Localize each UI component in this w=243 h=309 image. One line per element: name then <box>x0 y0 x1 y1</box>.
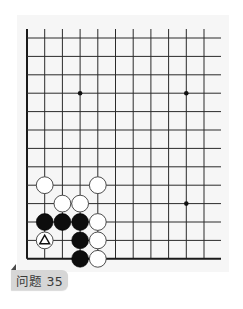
white-stone[interactable] <box>54 195 71 212</box>
white-stone[interactable] <box>89 177 106 194</box>
go-board[interactable] <box>0 0 243 309</box>
white-stone[interactable] <box>89 232 106 249</box>
black-stone[interactable] <box>72 232 89 249</box>
white-stone[interactable] <box>72 195 89 212</box>
problem-label-tab: 问题 35 <box>11 270 68 290</box>
black-stone[interactable] <box>36 214 53 231</box>
star-point-icon <box>184 91 189 96</box>
white-stone[interactable] <box>36 177 53 194</box>
white-stone[interactable] <box>89 214 106 231</box>
problem-number-label: 问题 35 <box>16 271 63 290</box>
black-stone[interactable] <box>54 214 71 231</box>
black-stone[interactable] <box>72 250 89 267</box>
star-point-icon <box>78 91 83 96</box>
white-stone[interactable] <box>89 250 106 267</box>
black-stone[interactable] <box>72 214 89 231</box>
star-point-icon <box>184 201 189 206</box>
